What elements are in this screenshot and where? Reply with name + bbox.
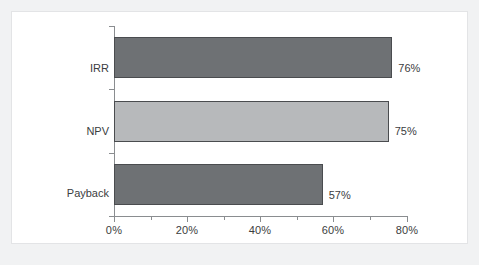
bar-npv[interactable] (114, 101, 389, 142)
x-axis-tick-minor (224, 217, 225, 220)
y-axis-tick (109, 89, 114, 90)
category-label-column: IRR NPV Payback (12, 12, 109, 245)
plot-area: IRR NPV Payback 0% 2 (12, 12, 469, 245)
category-label-irr: IRR (17, 62, 109, 74)
x-axis-tick-major (333, 217, 334, 222)
figure-root: IRR NPV Payback 0% 2 (0, 0, 479, 265)
x-axis-tick-major (114, 217, 115, 222)
value-label-payback: 57% (329, 189, 351, 201)
x-axis-tick-minor (151, 217, 152, 220)
bar-irr[interactable] (114, 37, 392, 78)
value-label-npv: 75% (395, 125, 417, 137)
y-axis-tick (109, 26, 114, 27)
category-label-payback: Payback (17, 187, 109, 199)
category-label-npv: NPV (17, 125, 109, 137)
chart-panel: IRR NPV Payback 0% 2 (11, 11, 468, 244)
x-axis-tick-major (187, 217, 188, 222)
x-axis-tick-label-40: 40% (230, 224, 290, 236)
x-axis-tick-label-0: 0% (84, 224, 144, 236)
x-axis-tick-major (407, 217, 408, 222)
x-axis-tick-minor (370, 217, 371, 220)
x-axis-tick-label-20: 20% (157, 224, 217, 236)
x-axis-tick-label-60: 60% (303, 224, 363, 236)
x-axis-tick-major (260, 217, 261, 222)
value-label-irr: 76% (398, 62, 420, 74)
bar-payback[interactable] (114, 164, 323, 205)
y-axis-tick (109, 153, 114, 154)
x-axis-line (114, 216, 408, 217)
x-axis-tick-minor (297, 217, 298, 220)
x-axis-tick-label-80: 80% (377, 224, 437, 236)
